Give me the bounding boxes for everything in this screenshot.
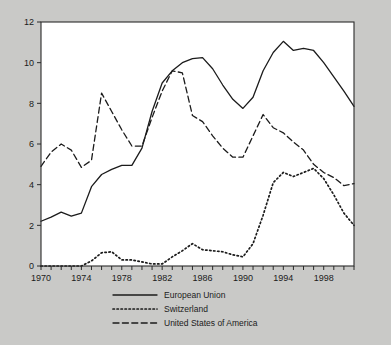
y-tick-label: 4 [29, 180, 34, 190]
chart-figure: 024681012 197019741978198219861990199419… [0, 0, 391, 345]
x-tick-label: 1970 [31, 273, 51, 283]
x-tick-label: 1986 [193, 273, 213, 283]
x-tick-label: 1974 [71, 273, 91, 283]
legend-label: European Union [164, 290, 226, 300]
y-tick-label: 8 [29, 99, 34, 109]
y-tick-label: 0 [29, 261, 34, 271]
x-tick-label: 1998 [314, 273, 334, 283]
x-tick-label: 1978 [112, 273, 132, 283]
legend-label: United States of America [164, 318, 258, 328]
y-tick-label: 6 [29, 139, 34, 149]
y-tick-label: 10 [24, 58, 34, 68]
y-tick-label: 12 [24, 17, 34, 27]
x-tick-label: 1994 [273, 273, 293, 283]
x-tick-label: 1990 [233, 273, 253, 283]
legend-label: Switzerland [164, 304, 208, 314]
line-chart: 024681012 197019741978198219861990199419… [0, 0, 391, 345]
y-tick-label: 2 [29, 221, 34, 231]
x-tick-label: 1982 [152, 273, 172, 283]
